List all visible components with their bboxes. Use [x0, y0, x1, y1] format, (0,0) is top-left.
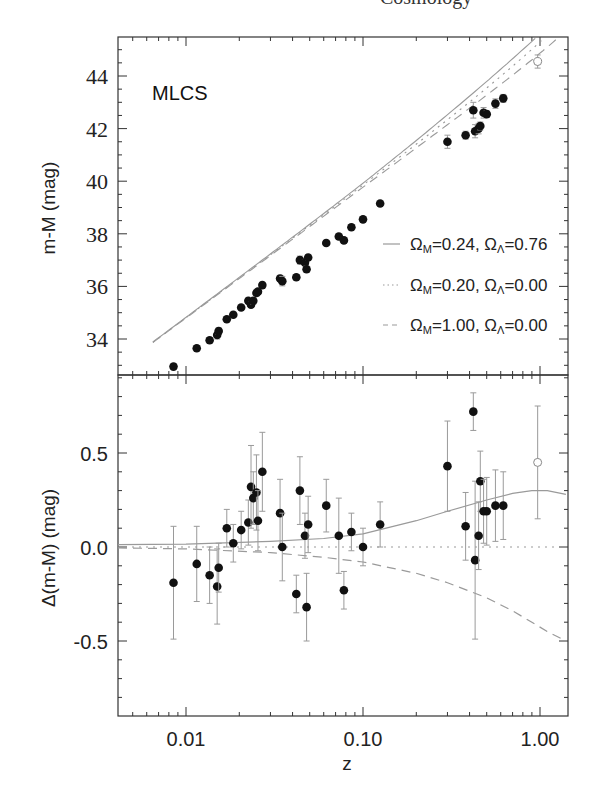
data-point — [302, 603, 311, 612]
data-point — [169, 578, 178, 587]
data-point — [347, 223, 356, 232]
legend-label: ΩM=1.00, ΩΛ=0.00 — [410, 316, 547, 336]
x-tick-label: 0.10 — [344, 728, 383, 750]
bottom-panel-frame — [118, 375, 568, 716]
legend-label: ΩM=0.20, ΩΛ=0.00 — [410, 276, 547, 296]
data-point — [376, 520, 385, 529]
y-tick-label: 0.0 — [80, 537, 108, 559]
bottom-panel-model-curves — [118, 491, 566, 641]
data-point — [296, 486, 305, 495]
data-point — [443, 462, 452, 471]
data-point — [482, 507, 491, 516]
y-tick-label: 40 — [86, 169, 108, 194]
data-point — [340, 236, 349, 245]
data-point — [347, 528, 356, 537]
model-curve-dashed — [118, 548, 566, 641]
y-tick-label: 34 — [86, 327, 108, 352]
bottom-y-axis-label: Δ(m-M) (mag) — [38, 489, 59, 607]
data-point — [491, 99, 500, 108]
data-point — [229, 311, 238, 320]
data-point — [304, 253, 313, 262]
data-point — [214, 327, 223, 336]
data-point — [469, 407, 478, 416]
y-tick-label: 44 — [86, 64, 108, 89]
data-point — [222, 524, 231, 533]
data-point — [476, 122, 485, 131]
data-point — [214, 563, 223, 572]
data-point — [499, 501, 508, 510]
data-point — [443, 137, 452, 146]
data-point — [205, 571, 214, 580]
data-point — [258, 468, 267, 477]
data-point — [304, 520, 313, 529]
data-point — [474, 531, 483, 540]
y-tick-label: 0.5 — [80, 443, 108, 465]
x-axis-label: z — [342, 753, 352, 774]
bottom-panel-data-points — [169, 393, 541, 641]
x-tick-label: 0.01 — [167, 728, 206, 750]
data-point — [461, 522, 470, 531]
data-point — [237, 303, 246, 312]
data-point — [359, 543, 368, 552]
model-curve-dotted — [153, 40, 542, 342]
data-point — [335, 531, 344, 540]
top-panel-hubble-diagram: 343638404244 MLCS ΩM=0.24, ΩΛ=0.76ΩM=0.2… — [38, 37, 568, 375]
data-point — [482, 110, 491, 119]
data-point — [302, 265, 311, 274]
top-panel-model-curves — [153, 38, 557, 342]
data-point — [278, 277, 287, 286]
y-tick-label: 38 — [86, 222, 108, 247]
data-point — [205, 336, 214, 345]
mlcs-annotation: MLCS — [152, 82, 208, 104]
model-curve-solid — [153, 38, 535, 342]
y-tick-label: 42 — [86, 117, 108, 142]
data-point — [461, 131, 470, 140]
data-point — [237, 526, 246, 535]
data-point — [292, 590, 301, 599]
data-point — [192, 560, 201, 569]
data-point — [169, 362, 178, 371]
bottom-panel-axes: -0.50.00.50.010.101.00 — [74, 375, 568, 750]
data-point — [359, 215, 368, 224]
bottom-panel-residuals: -0.50.00.50.010.101.00 Δ(m-M) (mag) z — [38, 375, 568, 774]
legend-label: ΩM=0.24, ΩΛ=0.76 — [410, 235, 547, 255]
data-point — [249, 297, 258, 306]
legend: ΩM=0.24, ΩΛ=0.76ΩM=0.20, ΩΛ=0.00ΩM=1.00,… — [383, 235, 547, 336]
x-tick-label: 1.00 — [521, 728, 560, 750]
data-point — [292, 273, 301, 282]
data-point — [322, 239, 331, 248]
data-point — [254, 516, 263, 525]
data-point — [340, 586, 349, 595]
data-point — [213, 582, 222, 591]
data-point — [491, 501, 500, 510]
data-point — [278, 543, 287, 552]
y-tick-label: -0.5 — [74, 631, 108, 653]
open-data-point — [534, 458, 542, 466]
data-point — [258, 281, 267, 290]
data-point — [322, 501, 331, 510]
top-y-axis-label: m-M (mag) — [38, 162, 59, 255]
data-point — [252, 488, 261, 497]
data-point — [376, 199, 385, 208]
data-point — [229, 539, 238, 548]
hubble-diagram-figure: 343638404244 MLCS ΩM=0.24, ΩΛ=0.76ΩM=0.2… — [0, 0, 601, 801]
open-data-point — [534, 58, 542, 66]
data-point — [499, 94, 508, 103]
data-point — [192, 344, 201, 353]
y-tick-label: 36 — [86, 274, 108, 299]
data-point — [469, 106, 478, 115]
